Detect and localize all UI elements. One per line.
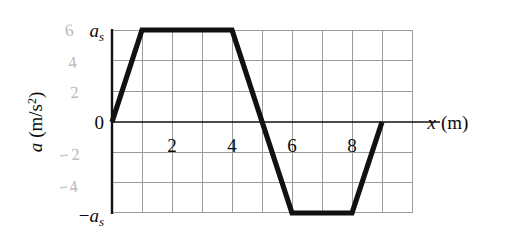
x-tick-label-4: 4	[227, 135, 237, 156]
x-axis-title: x(m)	[427, 112, 469, 134]
x-axis-title-var: x	[427, 112, 437, 133]
pencil-minus-stroke-2	[60, 187, 67, 188]
y-axis-title-unit: (m/s	[25, 104, 47, 138]
y-tick-label-zero: 0	[95, 112, 105, 133]
x-tick-label-6: 6	[287, 135, 297, 156]
y-axis-title-var: a	[25, 143, 46, 153]
x-tick-label-2: 2	[167, 135, 177, 156]
y-axis-title-unit-close: )	[25, 92, 47, 98]
x-tick-label-8: 8	[347, 135, 357, 156]
y-tick-top-sub: s	[99, 29, 104, 44]
pencil-minus-stroke-1	[60, 155, 68, 156]
chart-svg: as 0 −as 6 4 2 2 4 2 4 6 8 x(m) a(m/s2)	[0, 0, 509, 240]
acceleration-graph-figure: as 0 −as 6 4 2 2 4 2 4 6 8 x(m) a(m/s2)	[0, 0, 509, 240]
y-tick-bottom-sub: s	[99, 214, 104, 229]
y-tick-top-base: a	[89, 20, 99, 41]
x-axis-title-unit: (m)	[441, 112, 468, 134]
pencil-annotation-minus-2: 2	[70, 145, 80, 165]
y-tick-bottom-base: a	[89, 205, 99, 226]
pencil-annotation-2: 2	[69, 83, 79, 103]
y-tick-bottom-prefix: −	[79, 205, 90, 226]
